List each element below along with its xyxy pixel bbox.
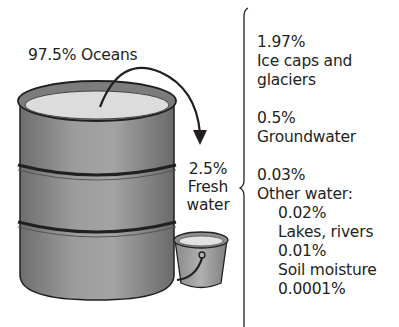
fresh-water-percent: 2.5%: [182, 160, 234, 178]
sub-item-percent: 0.02%: [278, 204, 377, 223]
breakdown-percent: 1.97%: [257, 33, 377, 52]
fresh-water-line2: water: [182, 196, 234, 214]
breakdown-label: Ice caps and: [257, 52, 377, 71]
fresh-water-label: 2.5% Fresh water: [182, 160, 234, 214]
sub-item-truncated: 0.0001%: [257, 280, 377, 299]
breakdown-label: Groundwater: [257, 128, 377, 147]
sub-item-label: Soil moisture: [278, 261, 377, 280]
breakdown-item-other-water: 0.03% Other water: 0.02% Lakes, rivers 0…: [257, 166, 377, 299]
sub-item-label: Lakes, rivers: [278, 223, 377, 242]
fresh-water-breakdown-list: 1.97% Ice caps and glaciers 0.5% Groundw…: [257, 33, 377, 299]
breakdown-item-ice-caps: 1.97% Ice caps and glaciers: [257, 33, 377, 90]
sub-item-percent: 0.01%: [278, 242, 377, 261]
breakdown-label: Other water:: [257, 185, 377, 204]
breakdown-percent: 0.5%: [257, 109, 377, 128]
sub-item-soil-moisture: 0.01% Soil moisture: [257, 242, 377, 280]
breakdown-percent: 0.03%: [257, 166, 377, 185]
bucket-icon: [174, 232, 228, 288]
fresh-water-line1: Fresh: [182, 178, 234, 196]
breakdown-item-groundwater: 0.5% Groundwater: [257, 109, 377, 147]
sub-item-lakes-rivers: 0.02% Lakes, rivers: [257, 204, 377, 242]
sub-item-percent: 0.0001%: [278, 280, 377, 299]
breakdown-label: glaciers: [257, 71, 377, 90]
water-distribution-diagram: 97.5% Oceans 2.5% Fresh water 1.97% Ice …: [0, 0, 399, 327]
brace-icon: [240, 8, 248, 327]
barrel-icon: [18, 81, 176, 300]
oceans-label: 97.5% Oceans: [28, 47, 137, 64]
